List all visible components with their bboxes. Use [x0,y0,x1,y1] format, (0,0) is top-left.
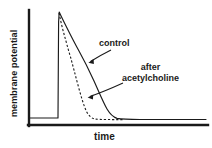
acetylcholine-arrow [90,83,123,97]
acetylcholine-trace-group [59,13,124,120]
plot-canvas [0,0,212,148]
y-axis-title: membrane potential [9,30,19,117]
control-arrow-head [88,59,94,64]
control-curve [29,12,206,120]
after-acetylcholine-label-line1: after [122,62,179,73]
control-label: control [99,38,130,49]
axis-lines [28,10,208,126]
after-acetylcholine-curve [59,13,124,120]
control-trace-group [29,12,206,120]
annotation-arrows [88,50,123,99]
after-acetylcholine-label: after acetylcholine [122,62,179,84]
membrane-potential-figure: membrane potential time control after ac… [0,0,212,148]
acetylcholine-arrow-head [88,95,94,100]
after-acetylcholine-label-line2: acetylcholine [122,73,179,84]
x-axis-title: time [94,131,115,142]
